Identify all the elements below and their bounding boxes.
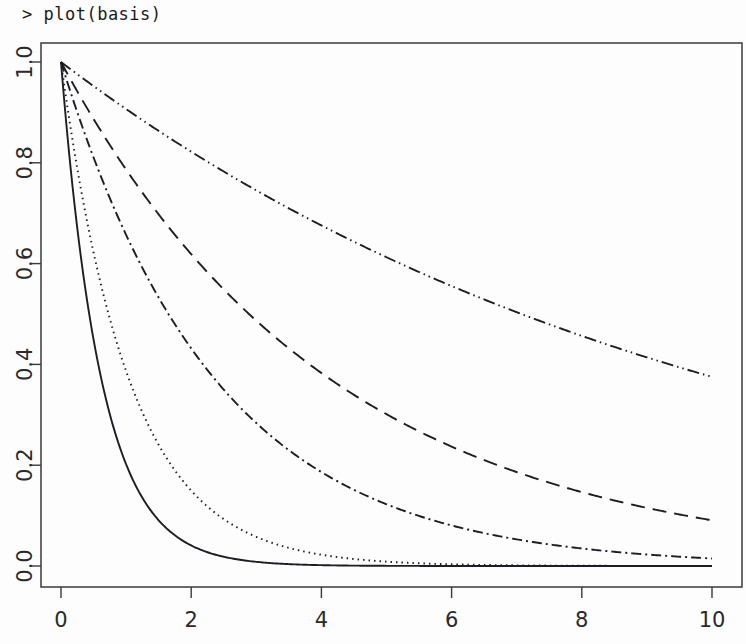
y-tick-label: 0.0 [13,549,37,582]
y-tick-label: 0.2 [13,448,37,481]
curve-basis-5 [61,62,712,377]
x-axis-tick-labels: 0246810 [54,608,725,632]
plot-region: 0.00.20.40.60.81.0 0246810 [0,0,746,644]
x-tick-label: 8 [575,608,588,632]
x-axis-ticks [61,587,712,598]
x-tick-label: 10 [699,608,726,632]
y-tick-label: 1.0 [13,45,37,78]
x-tick-label: 0 [54,608,67,632]
curve-basis-2 [61,62,712,566]
curve-basis-1 [61,62,712,566]
x-tick-label: 6 [445,608,458,632]
x-tick-label: 4 [315,608,328,632]
r-console-plot-window: > plot(basis) 0.00.20.40.60.81.0 0246810 [0,0,746,644]
y-tick-label: 0.6 [13,247,37,280]
plot-canvas: 0.00.20.40.60.81.0 0246810 [0,0,746,644]
data-curves [61,62,712,566]
y-axis-ticks [32,62,41,566]
y-tick-label: 0.4 [13,348,37,381]
y-axis-tick-labels: 0.00.20.40.60.81.0 [13,45,37,582]
y-tick-label: 0.8 [13,146,37,179]
curve-basis-3 [61,62,712,558]
x-tick-label: 2 [185,608,198,632]
